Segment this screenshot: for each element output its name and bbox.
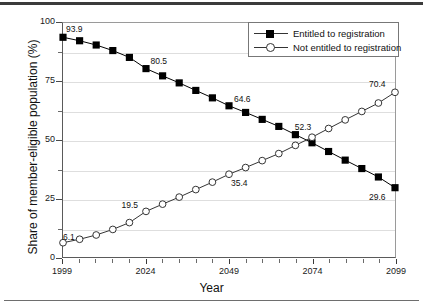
- marker-hollow-circle: [209, 179, 216, 186]
- x-tick-minor: [379, 259, 380, 263]
- y-axis-title: Share of member-eligible population (%): [26, 22, 40, 272]
- x-tick-label: 2074: [302, 266, 322, 276]
- x-axis-title: Year: [0, 281, 423, 295]
- data-point-label: 52.3: [295, 123, 312, 132]
- x-tick-minor: [129, 259, 130, 263]
- legend-item-not-entitled[interactable]: Not entitled to registration: [254, 41, 393, 54]
- x-tick-label: 2024: [135, 266, 155, 276]
- x-tick-minor: [262, 259, 263, 263]
- top-rule: [0, 2, 423, 5]
- legend-item-entitled[interactable]: Entitled to registration: [254, 27, 393, 40]
- x-tick-minor: [329, 259, 330, 263]
- marker-filled-square: [358, 165, 365, 172]
- marker-filled-square: [142, 65, 149, 72]
- marker-filled-square: [209, 94, 216, 101]
- marker-filled-square: [259, 116, 266, 123]
- chart-legend: Entitled to registration Not entitled to…: [248, 22, 399, 57]
- marker-hollow-circle: [109, 226, 116, 233]
- marker-hollow-circle: [226, 171, 233, 178]
- x-tick-major: [146, 259, 147, 264]
- x-tick-minor: [279, 259, 280, 263]
- marker-hollow-circle: [325, 125, 332, 132]
- marker-hollow-circle: [242, 164, 249, 171]
- y-tick-label: 25: [45, 194, 55, 203]
- marker-filled-square: [176, 79, 183, 86]
- marker-filled-square: [76, 37, 83, 44]
- marker-filled-square: [93, 41, 100, 48]
- y-tick-label: 50: [45, 135, 55, 144]
- data-point-label: 93.9: [66, 25, 83, 34]
- x-tick-minor: [179, 259, 180, 263]
- data-point-label: 6.1: [63, 233, 75, 242]
- x-tick-label: 1999: [52, 266, 72, 276]
- marker-filled-square: [109, 47, 116, 54]
- x-tick-minor: [246, 259, 247, 263]
- series-not-entitled: [60, 89, 399, 246]
- series-line: [63, 37, 395, 187]
- x-tick-major: [62, 259, 63, 264]
- marker-hollow-circle: [192, 186, 199, 193]
- x-tick-minor: [79, 259, 80, 263]
- series-layer: [63, 23, 395, 257]
- x-tick-minor: [162, 259, 163, 263]
- x-tick-major: [313, 259, 314, 264]
- series-entitled: [59, 34, 398, 192]
- marker-filled-square: [275, 123, 282, 130]
- series-line: [63, 92, 395, 242]
- marker-hollow-circle: [342, 117, 349, 124]
- marker-hollow-circle: [126, 219, 133, 226]
- data-point-label: 19.5: [122, 201, 139, 210]
- marker-filled-square: [159, 72, 166, 79]
- marker-hollow-circle: [259, 157, 266, 164]
- marker-filled-square: [59, 34, 66, 41]
- x-tick-label: 2049: [219, 266, 239, 276]
- y-tick-label: 0: [50, 253, 55, 262]
- marker-hollow-circle: [275, 150, 282, 157]
- x-tick-minor: [112, 259, 113, 263]
- marker-filled-square: [391, 184, 398, 191]
- data-point-label: 29.6: [369, 193, 386, 202]
- marker-filled-square: [325, 148, 332, 155]
- marker-filled-square: [126, 54, 133, 61]
- y-tick-label: 100: [40, 17, 55, 26]
- chart-figure: Share of member-eligible population (%) …: [0, 0, 423, 308]
- marker-filled-square: [192, 87, 199, 94]
- marker-hollow-circle: [76, 236, 83, 243]
- marker-hollow-circle: [159, 201, 166, 208]
- marker-hollow-circle: [176, 194, 183, 201]
- marker-hollow-circle: [358, 108, 365, 115]
- data-point-label: 35.4: [231, 179, 248, 188]
- marker-hollow-circle: [309, 134, 316, 141]
- marker-hollow-circle: [93, 232, 100, 239]
- x-tick-minor: [95, 259, 96, 263]
- marker-filled-square: [342, 157, 349, 164]
- bottom-rule: [4, 300, 419, 301]
- legend-key-filled-square-icon: [254, 28, 288, 40]
- marker-filled-square: [292, 131, 299, 138]
- x-tick-minor: [296, 259, 297, 263]
- legend-label: Entitled to registration: [293, 28, 385, 39]
- x-tick-minor: [196, 259, 197, 263]
- legend-label: Not entitled to registration: [293, 42, 401, 53]
- x-tick-minor: [212, 259, 213, 263]
- plot-area: [62, 22, 396, 258]
- marker-hollow-circle: [392, 89, 399, 96]
- marker-filled-square: [375, 173, 382, 180]
- marker-filled-square: [242, 109, 249, 116]
- x-tick-major: [396, 259, 397, 264]
- y-tick-label: 75: [45, 76, 55, 85]
- marker-hollow-circle: [375, 100, 382, 107]
- x-tick-minor: [363, 259, 364, 263]
- marker-hollow-circle: [143, 208, 150, 215]
- x-tick-minor: [346, 259, 347, 263]
- marker-filled-square: [225, 102, 232, 109]
- marker-hollow-circle: [292, 142, 299, 149]
- x-tick-major: [229, 259, 230, 264]
- legend-key-hollow-circle-icon: [254, 42, 288, 54]
- data-point-label: 80.5: [151, 57, 168, 66]
- data-point-label: 70.4: [369, 80, 386, 89]
- x-tick-label: 2099: [386, 266, 406, 276]
- data-point-label: 64.6: [234, 95, 251, 104]
